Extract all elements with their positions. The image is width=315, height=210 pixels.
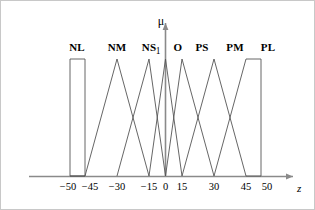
x-tick-label-minus15: −15 — [141, 182, 157, 193]
membership-curve-ns — [117, 59, 166, 176]
x-axis-symbol-label: z — [297, 183, 301, 194]
x-tick-label-minus50: −50 — [60, 182, 76, 193]
set-label-nl: NL — [69, 42, 85, 53]
set-label-ns: NS — [142, 42, 156, 53]
x-tick-label-0: 0 — [163, 182, 168, 193]
x-tick-label-50: 50 — [262, 182, 273, 193]
set-label-pm: PM — [226, 42, 244, 53]
x-tick-label-45: 45 — [241, 182, 252, 193]
y-axis-peak-label: 1 — [156, 47, 161, 57]
membership-function-figure: μ 1 z NL NM NS O PS PM PL −50 −45 −30 −1… — [0, 0, 315, 210]
membership-curve-nm — [70, 59, 149, 176]
x-tick-label-minus45: −45 — [82, 182, 98, 193]
membership-curve-ps — [166, 59, 215, 176]
x-tick-label-15: 15 — [177, 182, 188, 193]
x-axis-arrowhead — [286, 174, 293, 180]
set-label-nm: NM — [108, 42, 127, 53]
membership-curve-pm — [182, 59, 246, 176]
y-axis-symbol-label: μ — [158, 15, 164, 27]
x-tick-label-minus30: −30 — [109, 182, 125, 193]
set-label-ps: PS — [195, 42, 208, 53]
set-label-pl: PL — [261, 42, 275, 53]
membership-plot-svg — [1, 1, 315, 210]
x-tick-label-30: 30 — [209, 182, 220, 193]
set-label-o: O — [174, 42, 183, 53]
membership-curve-nl — [70, 59, 85, 176]
membership-curve-pl — [214, 59, 261, 176]
